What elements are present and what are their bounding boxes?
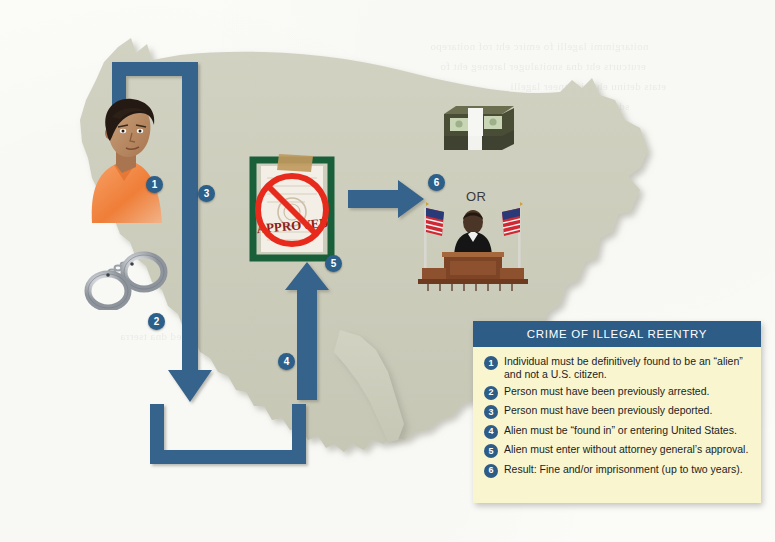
legend-item-number: 1 (484, 356, 498, 370)
detained-individual-illustration (78, 95, 173, 225)
document-tape (277, 154, 313, 172)
badge-5: 5 (325, 255, 342, 272)
cash-stack-illustration (440, 100, 518, 162)
handcuff-ring-left-edge (88, 274, 128, 308)
badge-4: 4 (278, 353, 295, 370)
legend-item-text: Alien must enter without attorney genera… (504, 443, 748, 456)
legend-item-text: Result: Fine and/or imprisonment (up to … (504, 463, 743, 476)
person-pupil-right (139, 130, 142, 133)
badge-1: 1 (146, 176, 163, 193)
legend-item-number: 6 (484, 464, 498, 478)
judge-bench-wing-left (422, 268, 446, 279)
legend-item: 4 Alien must be “found in” or entering U… (484, 424, 749, 439)
judge-bench-panel (450, 261, 496, 275)
judge-bench-wing-right (500, 268, 524, 279)
legend-item: 6 Result: Fine and/or imprisonment (up t… (484, 463, 749, 478)
legend-panel: CRIME OF ILLEGAL REENTRY 1 Individual mu… (473, 321, 761, 503)
money-portrait-right (489, 118, 496, 125)
judge-bench-slats (428, 284, 512, 291)
judge-bench-top (442, 252, 504, 257)
infographic-canvas: noitargimmi lagelli fo emirc eht rof noi… (0, 0, 775, 542)
handcuffs-illustration (82, 248, 170, 310)
legend-item-text: Person must have been previously arreste… (504, 385, 709, 398)
money-portrait-left (455, 120, 462, 127)
money-band-upper (468, 108, 483, 136)
judge-bench-base (418, 279, 528, 284)
legend-item: 1 Individual must be definitively found … (484, 355, 749, 380)
legend-item-number: 4 (484, 425, 498, 439)
judge-at-bench-illustration (408, 198, 538, 293)
person-pupil-left (122, 130, 125, 133)
legend-item-text: Person must have been previously deporte… (504, 404, 712, 417)
legend-title: CRIME OF ILLEGAL REENTRY (473, 321, 761, 347)
legend-item-number: 5 (484, 444, 498, 458)
legend-item-text: Alien must be “found in” or entering Uni… (504, 424, 737, 437)
legend-item: 3 Person must have been previously depor… (484, 404, 749, 419)
legend-item-number: 3 (484, 405, 498, 419)
badge-3: 3 (198, 185, 215, 202)
legend-item-text: Individual must be definitively found to… (504, 355, 749, 380)
legend-item-number: 2 (484, 386, 498, 400)
handcuff-keyhole-right (130, 262, 134, 266)
denied-approval-document-illustration: APPROVED (247, 148, 339, 273)
legend-item: 5 Alien must enter without attorney gene… (484, 443, 749, 458)
handcuff-keyhole-left (106, 273, 110, 277)
legend-item: 2 Person must have been previously arres… (484, 385, 749, 400)
badge-2: 2 (148, 313, 165, 330)
legend-items: 1 Individual must be definitively found … (473, 347, 761, 488)
badge-6: 6 (428, 174, 445, 191)
